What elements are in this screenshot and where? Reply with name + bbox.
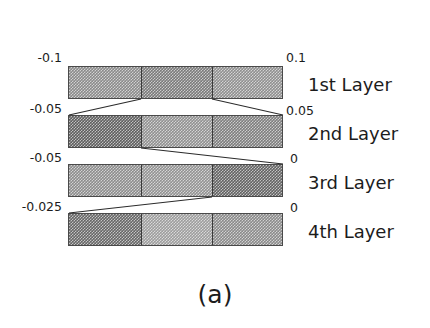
- layer-label-1: 1st Layer: [308, 76, 392, 94]
- bar-segment-2-left: [69, 116, 141, 147]
- axis-label-left-row-2: -0.05: [0, 103, 62, 116]
- axis-label-left-row-1: -0.1: [8, 52, 62, 65]
- table-row: [68, 213, 283, 246]
- axis-label-left-row-4: -0.025: [0, 201, 62, 214]
- table-row: [68, 66, 283, 99]
- bar-segment-3-right: [212, 165, 282, 196]
- figure-caption: (a): [0, 282, 430, 307]
- bar-segment-1-right: [212, 67, 282, 98]
- bar-segment-4-middle: [141, 214, 211, 245]
- bar-segment-3-middle: [141, 165, 211, 196]
- bar-segment-2-middle: [141, 116, 211, 147]
- axis-label-right-row-2: 0.05: [286, 105, 314, 118]
- bar-segment-2-right: [212, 116, 282, 147]
- figure-container: -0.1 -0.05 -0.05 -0.025 0.1 0.05 0 0 1st…: [0, 0, 430, 328]
- layer-label-4: 4th Layer: [308, 223, 394, 241]
- axis-label-right-row-1: 0.1: [286, 52, 306, 65]
- bar-segment-3-left: [69, 165, 141, 196]
- bar-segment-4-left: [69, 214, 141, 245]
- layer-label-2: 2nd Layer: [308, 125, 398, 143]
- axis-label-right-row-4: 0: [290, 202, 298, 215]
- bar-segment-1-middle: [141, 67, 211, 98]
- plot-area: [68, 66, 283, 246]
- axis-label-left-row-3: -0.05: [0, 152, 62, 165]
- bar-segment-1-left: [69, 67, 141, 98]
- axis-label-right-row-3: 0: [290, 153, 298, 166]
- layer-label-3: 3rd Layer: [308, 174, 394, 192]
- bar-segment-4-right: [212, 214, 282, 245]
- table-row: [68, 164, 283, 197]
- table-row: [68, 115, 283, 148]
